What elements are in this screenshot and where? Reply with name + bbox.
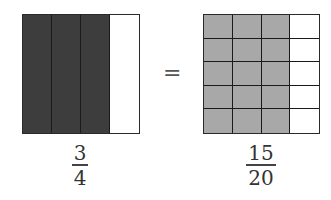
left-fraction-label: 3 4 [55, 144, 105, 187]
shaded-cell [204, 15, 233, 39]
left-fraction-model [22, 14, 140, 134]
unshaded-cell [290, 86, 319, 110]
right-numerator: 15 [236, 144, 286, 164]
right-fraction-label: 15 20 [236, 144, 286, 187]
shaded-cell [262, 109, 291, 133]
shaded-cell [233, 15, 262, 39]
shaded-cell [233, 39, 262, 63]
unshaded-cell [290, 15, 319, 39]
shaded-cell [81, 15, 110, 133]
right-fraction-model [203, 14, 320, 134]
right-denominator: 20 [236, 166, 286, 187]
shaded-cell [262, 39, 291, 63]
shaded-cell [204, 39, 233, 63]
unshaded-cell [290, 39, 319, 63]
shaded-cell [233, 86, 262, 110]
shaded-cell [204, 62, 233, 86]
unshaded-cell [290, 109, 319, 133]
shaded-cell [262, 86, 291, 110]
shaded-cell [23, 15, 52, 133]
left-denominator: 4 [55, 166, 105, 187]
shaded-cell [262, 15, 291, 39]
shaded-cell [204, 86, 233, 110]
shaded-cell [233, 62, 262, 86]
left-numerator: 3 [55, 144, 105, 164]
shaded-cell [204, 109, 233, 133]
shaded-cell [52, 15, 81, 133]
shaded-cell [262, 62, 291, 86]
shaded-cell [233, 109, 262, 133]
equals-sign: = [163, 63, 179, 83]
unshaded-cell [290, 62, 319, 86]
unshaded-cell [110, 15, 139, 133]
